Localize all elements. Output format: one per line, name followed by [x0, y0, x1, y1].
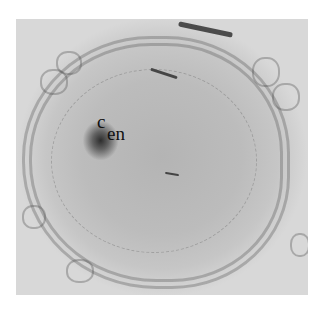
- outer-cell: [290, 233, 308, 257]
- dark-cell-wall-mid: [150, 68, 178, 80]
- outer-cell: [40, 69, 68, 95]
- outer-cell: [22, 205, 46, 229]
- outer-cell: [272, 83, 300, 111]
- outer-cell: [66, 259, 94, 283]
- dark-cell-wall-top: [178, 21, 233, 37]
- dark-cell-wall-small: [165, 172, 179, 176]
- label-en: en: [107, 124, 125, 143]
- label-c: c: [97, 112, 105, 131]
- outer-cell: [252, 57, 280, 87]
- micrograph-image: [16, 19, 308, 295]
